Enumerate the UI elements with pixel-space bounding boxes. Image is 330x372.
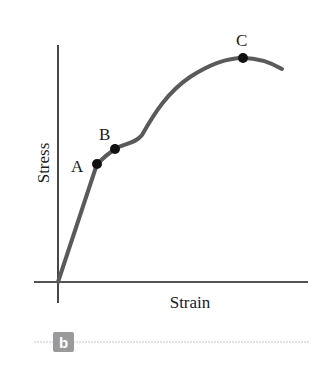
stress-strain-curve <box>58 58 282 282</box>
point-a-label: A <box>71 157 84 176</box>
point-c-marker <box>238 53 248 63</box>
x-axis-label: Strain <box>170 293 211 312</box>
point-a-marker <box>92 159 102 169</box>
stress-strain-diagram: A B C Stress Strain b <box>0 0 330 372</box>
y-axis-label: Stress <box>34 143 53 184</box>
panel-badge-label: b <box>59 334 68 351</box>
point-b-label: B <box>99 125 110 144</box>
point-c-label: C <box>236 31 247 50</box>
point-b-marker <box>110 144 120 154</box>
